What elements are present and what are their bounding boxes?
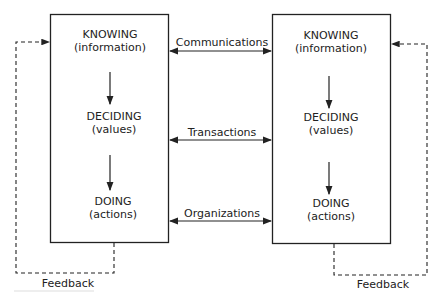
stage-title: KNOWING: [62, 28, 158, 41]
left-feedback-label: Feedback: [38, 277, 98, 290]
right-feedback-label: Feedback: [353, 278, 413, 291]
stage-subtitle: (values): [283, 124, 379, 137]
stage-title: DECIDING: [66, 110, 162, 123]
stage-subtitle: (information): [283, 42, 379, 55]
right-doing-stage: DOING (actions): [283, 197, 379, 223]
stage-subtitle: (information): [62, 41, 158, 54]
right-deciding-stage: DECIDING (values): [283, 111, 379, 137]
communications-label: Communications: [170, 36, 274, 49]
stage-subtitle: (values): [66, 123, 162, 136]
faint-caption: [14, 290, 94, 292]
stage-title: KNOWING: [283, 29, 379, 42]
right-knowing-stage: KNOWING (information): [283, 29, 379, 55]
left-doing-stage: DOING (actions): [65, 195, 161, 221]
stage-title: DOING: [283, 197, 379, 210]
right-feedback-loop: [334, 44, 427, 275]
stage-title: DECIDING: [283, 111, 379, 124]
stage-title: DOING: [65, 195, 161, 208]
transactions-label: Transactions: [170, 126, 274, 139]
left-deciding-stage: DECIDING (values): [66, 110, 162, 136]
stage-subtitle: (actions): [283, 210, 379, 223]
organizations-label: Organizations: [170, 207, 274, 220]
left-feedback-loop: [16, 42, 114, 273]
left-knowing-stage: KNOWING (information): [62, 28, 158, 54]
stage-subtitle: (actions): [65, 208, 161, 221]
diagram-canvas: KNOWING (information) DECIDING (values) …: [0, 0, 441, 298]
